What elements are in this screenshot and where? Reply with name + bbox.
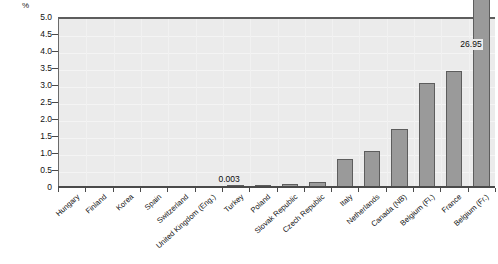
y-axis-tick-mark	[52, 68, 58, 69]
data-label: 26.95	[459, 39, 482, 50]
bar-slot	[118, 0, 134, 187]
y-axis-tick-mark	[52, 85, 58, 86]
y-axis-tick-mark	[52, 102, 58, 103]
x-axis-category-label: Turkey	[222, 193, 244, 214]
bar	[391, 129, 407, 187]
x-axis-category-label: France	[440, 193, 463, 214]
x-axis-tick-mark	[85, 188, 86, 192]
bar-slot	[473, 0, 489, 187]
y-axis-tick-label: 4.5	[18, 30, 52, 39]
bar-slot	[282, 0, 298, 187]
x-axis-labels: HungaryFinlandKoreaSpainSwitzerlandUnite…	[58, 193, 495, 264]
x-axis-category-label: Hungary	[54, 193, 80, 218]
bar	[419, 83, 435, 187]
bar-slot	[173, 0, 189, 187]
x-axis-tick-mark	[140, 188, 141, 192]
y-axis-tick-mark	[52, 34, 58, 35]
x-axis-tick-mark	[413, 188, 414, 192]
bar-slot	[63, 0, 79, 187]
bar-slot	[255, 0, 271, 187]
bar	[364, 151, 380, 187]
bar	[473, 0, 489, 187]
x-axis-tick-mark	[113, 188, 114, 192]
bar	[337, 159, 353, 187]
x-axis-tick-mark	[277, 188, 278, 192]
x-axis-tick-mark	[304, 188, 305, 192]
x-axis-category-label: Korea	[115, 193, 135, 212]
y-axis-tick-label: 3.0	[18, 81, 52, 90]
x-axis-tick-mark	[222, 188, 223, 192]
x-axis-tick-mark	[331, 188, 332, 192]
y-axis-tick-mark	[52, 170, 58, 171]
y-axis-tick-label: 5.0	[18, 13, 52, 22]
x-axis-tick-mark	[386, 188, 387, 192]
bar-slot	[391, 0, 407, 187]
y-axis-tick-label: 4.0	[18, 47, 52, 56]
y-axis-tick-label: 1.5	[18, 132, 52, 141]
bar	[446, 71, 462, 187]
data-label: 0.003	[219, 175, 240, 184]
x-axis-tick-mark	[195, 188, 196, 192]
bar-slot	[337, 0, 353, 187]
x-axis-tick-mark	[468, 188, 469, 192]
bars-layer	[58, 0, 495, 187]
y-axis-tick-mark	[52, 119, 58, 120]
y-axis-tick-label: 0	[18, 183, 52, 192]
bar-slot	[446, 0, 462, 187]
bar-slot	[309, 0, 325, 187]
x-axis-category-label: Poland	[249, 193, 272, 214]
y-axis-tick-label: 3.5	[18, 64, 52, 73]
bar-slot	[364, 0, 380, 187]
x-axis-tick-mark	[358, 188, 359, 192]
bar-chart: % 00.51.01.52.02.53.03.54.04.55.0 Hungar…	[0, 0, 498, 264]
y-axis-tick-label: 0.5	[18, 166, 52, 175]
x-axis-tick-mark	[249, 188, 250, 192]
x-axis-tick-mark	[495, 188, 496, 192]
y-axis: 00.51.01.52.02.53.03.54.04.55.0	[0, 0, 52, 264]
y-axis-tick-mark	[52, 136, 58, 137]
x-axis-category-label: Spain	[143, 193, 163, 212]
x-axis-category-label: Italy	[338, 193, 353, 208]
y-axis-tick-label: 1.0	[18, 149, 52, 158]
x-axis-tick-mark	[58, 188, 59, 192]
y-axis-tick-mark	[52, 153, 58, 154]
y-axis-tick-label: 2.5	[18, 98, 52, 107]
bar-slot	[227, 0, 243, 187]
x-axis-tick-mark	[167, 188, 168, 192]
bar-slot	[200, 0, 216, 187]
x-axis-category-label: Finland	[84, 193, 108, 215]
y-axis-tick-label: 2.0	[18, 115, 52, 124]
y-axis-tick-mark	[52, 51, 58, 52]
x-axis-tick-mark	[440, 188, 441, 192]
bar-slot	[91, 0, 107, 187]
bar-slot	[145, 0, 161, 187]
bar-slot	[419, 0, 435, 187]
